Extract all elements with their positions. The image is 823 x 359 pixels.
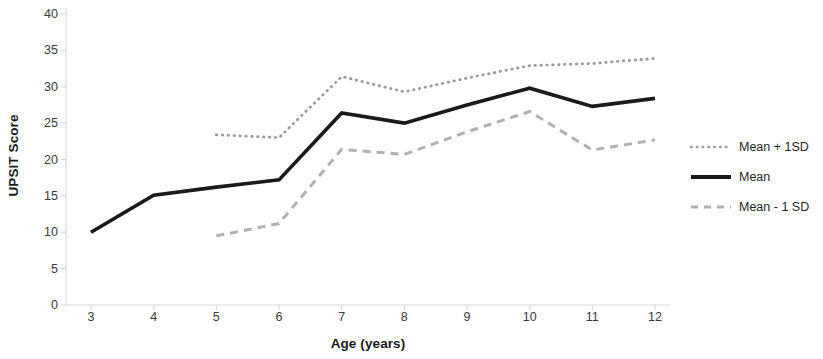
x-axis-tick-label: 8 [384, 310, 424, 324]
series-line [216, 111, 655, 235]
x-axis-title: Age (years) [66, 336, 670, 351]
x-axis-tick-label: 3 [71, 310, 111, 324]
y-axis-tick-label: 10 [32, 225, 58, 239]
y-axis-tick-label: 0 [32, 298, 58, 312]
y-axis-tick-label: 5 [32, 262, 58, 276]
series-line [91, 88, 655, 232]
x-axis-tick-label: 7 [322, 310, 362, 324]
legend-item-mean: Mean [690, 162, 823, 192]
chart-legend: Mean + 1SD Mean Mean - 1 SD [690, 132, 823, 222]
x-axis-tick-label: 9 [447, 310, 487, 324]
x-axis-tick-label: 12 [635, 310, 675, 324]
y-axis-title-label: UPSIT Score [6, 114, 21, 196]
y-axis-tick-label: 40 [32, 7, 58, 21]
y-axis-tick-labels: 0510152025303540 [28, 0, 58, 359]
legend-swatch-dashed-icon [690, 201, 732, 213]
y-axis-tick-label: 20 [32, 153, 58, 167]
legend-swatch-solid-icon [690, 171, 732, 183]
x-axis-tick-label: 10 [510, 310, 550, 324]
legend-item-mean-minus-1sd: Mean - 1 SD [690, 192, 823, 222]
legend-label: Mean - 1 SD [739, 200, 809, 214]
y-axis-title: UPSIT Score [0, 0, 26, 310]
x-axis-tick-label: 6 [259, 310, 299, 324]
legend-swatch-dotted-icon [690, 141, 732, 153]
chart-figure: UPSIT Score 0510152025303540 34567891011… [0, 0, 823, 359]
y-axis-tick-label: 35 [32, 43, 58, 57]
series-line [216, 58, 655, 137]
legend-label: Mean [739, 170, 770, 184]
legend-label: Mean + 1SD [739, 140, 809, 154]
y-axis-tick-label: 30 [32, 80, 58, 94]
x-axis-tick-label: 4 [134, 310, 174, 324]
y-axis-tick-label: 15 [32, 189, 58, 203]
legend-item-mean-plus-1sd: Mean + 1SD [690, 132, 823, 162]
y-axis-tick-label: 25 [32, 116, 58, 130]
x-axis-tick-label: 11 [572, 310, 612, 324]
x-axis-tick-label: 5 [196, 310, 236, 324]
